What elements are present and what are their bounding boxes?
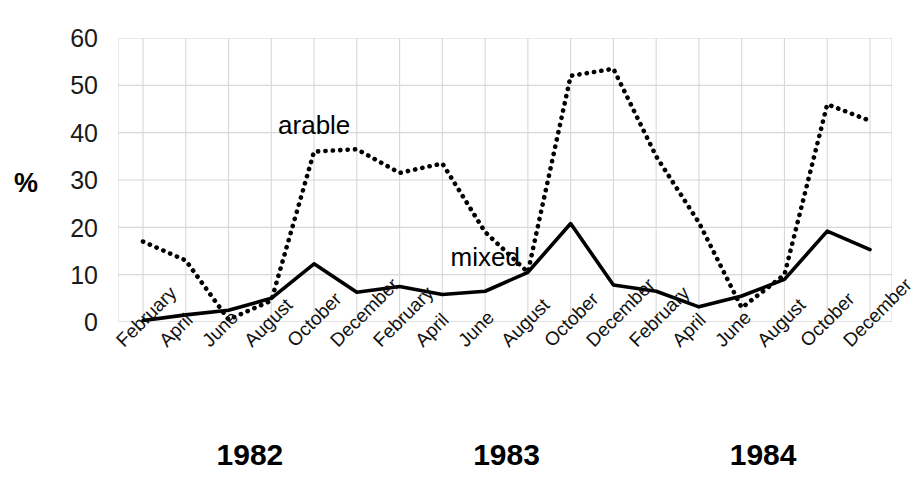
- series-annotation-mixed: mixed: [451, 242, 520, 273]
- y-tick-label-50: 50: [48, 73, 98, 98]
- series-lines: [143, 69, 870, 321]
- grid-lines: [118, 38, 892, 322]
- plot-area: [118, 38, 892, 322]
- year-label-1982: 1982: [190, 438, 310, 472]
- y-axis-title: %: [14, 168, 38, 199]
- y-tick-label-60: 60: [48, 26, 98, 51]
- y-tick-label-20: 20: [48, 216, 98, 241]
- year-label-1983: 1983: [447, 438, 567, 472]
- y-tick-label-30: 30: [48, 168, 98, 193]
- plot-canvas: [118, 38, 892, 322]
- y-tick-label-0: 0: [48, 310, 98, 335]
- year-label-1984: 1984: [703, 438, 823, 472]
- series-annotation-arable: arable: [278, 110, 350, 141]
- line-chart: % 60 50 40 30 20 10 0 arable mixed Febru…: [0, 0, 912, 494]
- y-tick-label-40: 40: [48, 121, 98, 146]
- y-tick-label-10: 10: [48, 263, 98, 288]
